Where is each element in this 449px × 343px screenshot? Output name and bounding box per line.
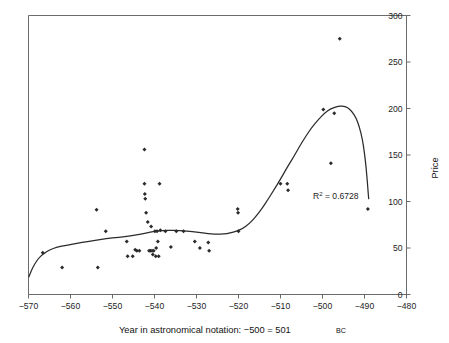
x-axis-title-era-suffix: BC <box>336 327 346 335</box>
data-point-marker <box>104 229 108 233</box>
y-tick-label: 250 <box>388 57 403 67</box>
y-tick-label: 300 <box>388 11 403 21</box>
data-point-marker <box>142 147 146 151</box>
data-point-marker <box>143 192 147 196</box>
data-point-marker <box>169 245 173 249</box>
data-point-marker <box>332 111 336 115</box>
x-tick-label: −540 <box>145 301 165 311</box>
data-point-marker <box>131 254 135 258</box>
x-tick-label: −480 <box>397 301 417 311</box>
r-squared-label: R2 = 0.6728 <box>313 191 359 201</box>
y-tick-label: 150 <box>388 150 403 160</box>
data-point-marker <box>155 229 159 233</box>
data-point-marker <box>338 37 342 41</box>
x-axis-title-group: Year in astronomical notation: −500 = 50… <box>119 325 346 335</box>
x-tick-label: −490 <box>355 301 375 311</box>
x-tick-label: −520 <box>229 301 249 311</box>
chart-svg: −570−560−550−540−530−520−510−500−490−480… <box>0 0 449 343</box>
data-point-marker <box>236 211 240 215</box>
x-tick-label: −570 <box>19 301 39 311</box>
data-point-marker <box>143 197 147 201</box>
data-point-marker <box>137 249 141 253</box>
plot-frame <box>29 16 407 295</box>
x-axis-ticks: −570−560−550−540−530−520−510−500−490−480 <box>19 295 417 311</box>
y-tick-label: 100 <box>388 197 403 207</box>
y-tick-label: 50 <box>393 243 403 253</box>
x-tick-label: −500 <box>313 301 333 311</box>
y-tick-label: 200 <box>388 104 403 114</box>
data-point-marker <box>207 249 211 253</box>
data-point-marker <box>144 211 148 215</box>
x-axis-title: Year in astronomical notation: −500 = 50… <box>119 325 291 335</box>
data-point-marker <box>193 239 197 243</box>
scatter-chart-figure: −570−560−550−540−530−520−510−500−490−480… <box>0 0 449 343</box>
data-point-marker <box>285 182 289 186</box>
data-point-marker <box>158 228 162 232</box>
data-point-marker <box>198 246 202 250</box>
y-tick-label: 0 <box>398 290 403 300</box>
y-axis-title: Price <box>430 157 440 178</box>
data-point-marker <box>60 266 64 270</box>
data-point-marker <box>158 182 162 186</box>
data-point-marker <box>95 208 99 212</box>
data-point-marker <box>206 240 210 244</box>
data-point-marker <box>126 254 130 258</box>
data-point-marker <box>96 266 100 270</box>
data-point-marker <box>146 220 150 224</box>
data-point-marker <box>154 246 158 250</box>
data-point-marker <box>149 225 153 229</box>
x-tick-label: −530 <box>187 301 207 311</box>
data-point-marker <box>181 229 185 233</box>
data-point-marker <box>236 207 240 211</box>
data-point-marker <box>142 182 146 186</box>
data-point-marker <box>156 239 160 243</box>
x-tick-label: −550 <box>103 301 123 311</box>
y-axis-ticks: 050100150200250300 <box>388 11 410 300</box>
data-point-marker <box>321 107 325 111</box>
data-points-group <box>41 37 370 270</box>
data-point-marker <box>329 161 333 165</box>
data-point-marker <box>125 239 129 243</box>
data-point-marker <box>286 188 290 192</box>
y-axis-title-group: Price <box>430 157 440 178</box>
data-point-marker <box>157 254 161 258</box>
r-squared-annotation: R2 = 0.6728 <box>313 191 359 201</box>
x-tick-label: −560 <box>61 301 81 311</box>
data-point-marker <box>366 207 370 211</box>
x-tick-label: −510 <box>271 301 291 311</box>
